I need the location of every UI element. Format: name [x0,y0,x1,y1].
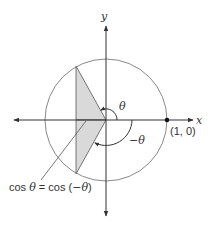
neg-theta-label: −θ [129,134,145,147]
point-label: (1, 0) [170,125,196,137]
upper-triangle [76,66,106,120]
point-1-0 [165,118,170,123]
theta-label: θ [119,100,126,113]
unit-circle-diagram: y x θ −θ (1, 0) cos θ = cos (−θ) [0,0,212,226]
y-axis-label: y [100,10,108,23]
cos-identity-label: cos θ = cos (−θ) [9,181,92,194]
x-axis-label: x [196,114,203,127]
